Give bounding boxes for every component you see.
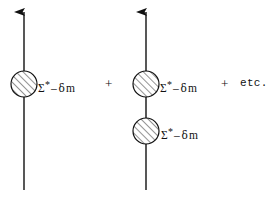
diagram-canvas xyxy=(0,0,278,198)
plus-operator-1: + xyxy=(105,77,112,90)
sigma-symbol: Σ xyxy=(161,129,168,141)
delta-symbol: δ xyxy=(59,82,66,94)
blob-1-label: Σ*–δm xyxy=(38,79,75,94)
delta-symbol: δ xyxy=(181,82,188,94)
star-superscript: * xyxy=(168,126,173,137)
plus-operator-2: + xyxy=(221,77,228,90)
etc-label: etc. xyxy=(240,78,268,89)
self-energy-blob-1 xyxy=(11,71,37,97)
sigma-symbol: Σ xyxy=(160,82,167,94)
mass-symbol: m xyxy=(189,129,198,141)
mass-symbol: m xyxy=(66,82,75,94)
term-1-group xyxy=(11,12,37,190)
mass-symbol: m xyxy=(188,82,197,94)
minus-sign: – xyxy=(174,129,180,141)
minus-sign: – xyxy=(51,82,57,94)
blob-2-label: Σ*–δm xyxy=(160,79,197,94)
sigma-symbol: Σ xyxy=(38,82,45,94)
blob-3-label: Σ*–δm xyxy=(161,126,198,141)
star-superscript: * xyxy=(167,79,172,90)
star-superscript: * xyxy=(45,79,50,90)
delta-symbol: δ xyxy=(182,129,189,141)
feynman-diagram-figure: Σ*–δm + Σ*–δm Σ*–δm + etc. xyxy=(0,0,278,198)
term-2-group xyxy=(133,12,159,190)
minus-sign: – xyxy=(173,82,179,94)
self-energy-blob-3 xyxy=(133,118,159,144)
self-energy-blob-2 xyxy=(133,71,159,97)
